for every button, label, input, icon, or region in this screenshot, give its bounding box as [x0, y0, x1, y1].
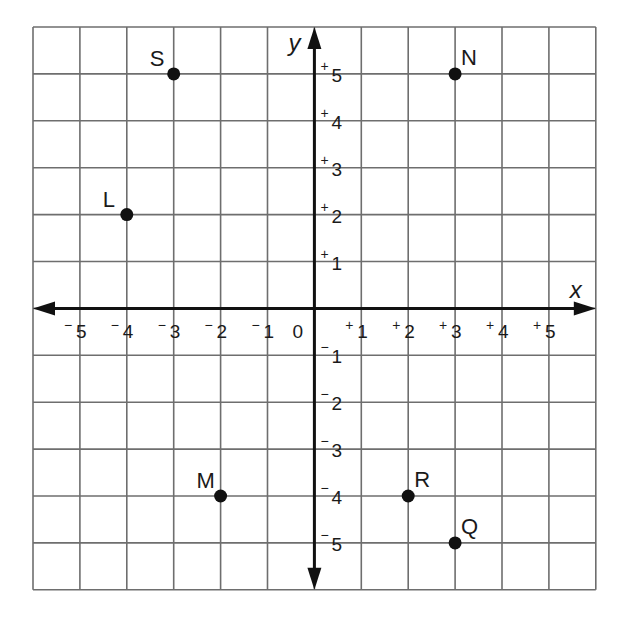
tick-number: 5 [331, 65, 342, 86]
tick-number: 2 [217, 321, 228, 342]
tick-sign: + [345, 317, 353, 333]
tick-sign: + [320, 105, 328, 121]
y-axis-down-arrow-icon [307, 568, 321, 590]
tick-number: 4 [331, 112, 342, 133]
y-tick-label: +3 [320, 152, 342, 180]
tick-sign: + [320, 246, 328, 262]
tick-sign: + [392, 317, 400, 333]
tick-sign: − [252, 317, 260, 333]
tick-sign: − [320, 527, 328, 543]
x-tick-label: −5 [64, 317, 87, 342]
point-marker [214, 490, 227, 503]
tick-sign: − [320, 433, 328, 449]
point-q: Q [449, 514, 479, 550]
tick-number: 5 [331, 534, 342, 555]
point-s: S [150, 46, 181, 81]
x-tick-label: +1 [345, 317, 368, 342]
y-tick-label: −4 [320, 480, 342, 508]
x-tick-label: +2 [392, 317, 415, 342]
y-tick-label: +4 [320, 105, 342, 133]
x-tick-label: −3 [158, 317, 181, 342]
tick-number: 5 [545, 321, 556, 342]
x-axis-right-arrow-icon [574, 301, 596, 315]
axes: xy [33, 27, 596, 590]
tick-number: 3 [331, 159, 342, 180]
point-marker [449, 536, 462, 549]
tick-number: 4 [331, 487, 342, 508]
tick-sign: − [64, 317, 72, 333]
y-tick-label: −2 [320, 386, 342, 414]
tick-labels: −5−4−3−2−1+1+2+3+4+50+5+4+3+2+1−1−2−3−4−… [64, 58, 556, 555]
point-marker [167, 67, 180, 80]
tick-number: 1 [331, 253, 342, 274]
x-tick-label: −1 [252, 317, 275, 342]
coordinate-grid: xy −5−4−3−2−1+1+2+3+4+50+5+4+3+2+1−1−2−3… [0, 0, 633, 641]
tick-number: 4 [498, 321, 509, 342]
tick-number: 3 [331, 440, 342, 461]
tick-number: 1 [331, 346, 342, 367]
tick-sign: − [111, 317, 119, 333]
x-tick-label: −4 [111, 317, 134, 342]
tick-sign: + [439, 317, 447, 333]
point-marker [449, 67, 462, 80]
point-n: N [449, 45, 477, 81]
point-label: N [461, 45, 477, 70]
x-tick-label: +4 [486, 317, 509, 342]
point-label: Q [461, 514, 478, 539]
tick-sign: + [533, 317, 541, 333]
tick-sign: − [320, 386, 328, 402]
tick-number: 3 [451, 321, 462, 342]
tick-sign: + [486, 317, 494, 333]
tick-number: 3 [170, 321, 181, 342]
y-axis-label: y [286, 29, 302, 56]
x-tick-label: −2 [205, 317, 228, 342]
point-label: S [150, 46, 165, 71]
y-tick-label: +1 [320, 246, 342, 274]
tick-sign: − [158, 317, 166, 333]
tick-number: 4 [123, 321, 134, 342]
y-tick-label: −5 [320, 527, 342, 555]
x-tick-label: +3 [439, 317, 462, 342]
y-tick-label: +2 [320, 199, 342, 227]
point-l: L [103, 187, 134, 222]
tick-number: 1 [264, 321, 275, 342]
point-label: R [414, 467, 430, 492]
tick-number: 5 [76, 321, 87, 342]
tick-number: 1 [357, 321, 368, 342]
point-m: M [197, 468, 228, 503]
tick-sign: − [205, 317, 213, 333]
tick-number: 2 [331, 206, 342, 227]
point-marker [120, 208, 133, 221]
point-marker [402, 490, 415, 503]
tick-sign: − [320, 480, 328, 496]
tick-number: 2 [331, 393, 342, 414]
tick-sign: + [320, 152, 328, 168]
tick-number: 2 [404, 321, 415, 342]
y-tick-label: −1 [320, 339, 342, 367]
tick-sign: − [320, 339, 328, 355]
origin-label: 0 [292, 321, 303, 342]
y-tick-label: −3 [320, 433, 342, 461]
x-axis-left-arrow-icon [33, 301, 55, 315]
point-r: R [402, 467, 430, 503]
x-tick-label: +5 [533, 317, 556, 342]
y-axis-up-arrow-icon [307, 27, 321, 49]
y-tick-label: +5 [320, 58, 342, 86]
tick-sign: + [320, 199, 328, 215]
point-label: M [197, 468, 215, 493]
point-label: L [103, 187, 115, 212]
tick-sign: + [320, 58, 328, 74]
x-axis-label: x [569, 276, 583, 303]
